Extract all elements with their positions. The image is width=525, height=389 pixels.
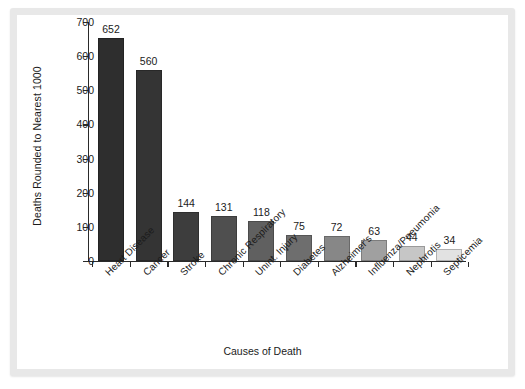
bar-column[interactable]: 652: [98, 38, 124, 261]
bar-value-label: 63: [368, 225, 380, 237]
x-axis-tick-mark: [205, 262, 206, 267]
bar-chart-figure: Deaths Rounded to Nearest 1000 010020030…: [0, 0, 525, 389]
x-axis-tick-mark: [355, 262, 356, 267]
y-axis-tick-mark: [83, 22, 88, 23]
y-axis-tick-mark: [83, 193, 88, 194]
x-axis-tick-mark: [130, 262, 131, 267]
bar-value-label: 75: [293, 220, 305, 232]
bar-value-label: 118: [253, 206, 270, 218]
x-axis-tick-mark: [468, 262, 469, 267]
bar-value-label: 560: [140, 55, 158, 67]
plot-surface: Deaths Rounded to Nearest 1000 010020030…: [0, 0, 525, 389]
bar-value-label: 34: [444, 234, 456, 246]
x-axis-tick-mark: [92, 262, 93, 267]
y-axis-tick-mark: [83, 90, 88, 91]
x-axis-tick-mark: [243, 262, 244, 267]
y-axis-tick-mark: [83, 227, 88, 228]
y-axis-tick-mark: [83, 56, 88, 57]
bar[interactable]: [98, 38, 124, 261]
x-axis-tick-mark: [393, 262, 394, 267]
x-axis-tick-mark: [318, 262, 319, 267]
bar-value-label: 72: [331, 221, 343, 233]
x-axis-title: Causes of Death: [0, 345, 525, 357]
x-axis-tick-mark: [431, 262, 432, 267]
x-axis-tick-mark: [167, 262, 168, 267]
y-axis-title: Deaths Rounded to Nearest 1000: [31, 31, 43, 261]
y-axis-tick-mark: [83, 124, 88, 125]
y-axis-tick-mark: [83, 159, 88, 160]
bar-value-label: 144: [177, 197, 195, 209]
bar-value-label: 131: [215, 201, 233, 213]
x-axis-tick-mark: [280, 262, 281, 267]
y-axis-tick-mark: [83, 261, 88, 262]
bar-value-label: 652: [102, 23, 120, 35]
